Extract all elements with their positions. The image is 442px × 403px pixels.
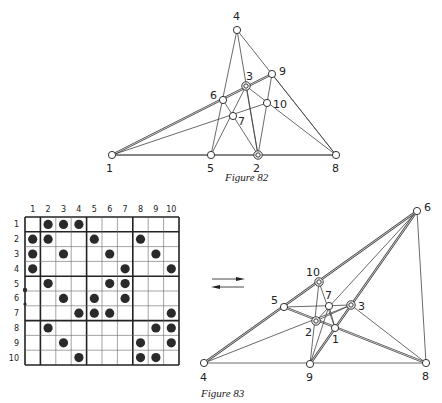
grid-filled-dot xyxy=(28,235,37,244)
grid-filled-dot xyxy=(74,353,83,362)
edge xyxy=(351,305,426,363)
node-label: 9 xyxy=(306,371,313,384)
graph-node-inner-ring xyxy=(256,153,260,157)
grid-row-label: 2 xyxy=(14,235,19,244)
edge xyxy=(417,211,426,363)
arrow-left-icon xyxy=(211,285,244,289)
grid-filled-dot xyxy=(121,264,130,273)
grid-filled-dot xyxy=(121,294,130,303)
grid-filled-dot xyxy=(44,220,53,229)
node-label: 8 xyxy=(332,162,339,175)
grid-filled-dot xyxy=(167,264,176,273)
graph-node xyxy=(207,151,214,158)
figure-83-graph: 12345678910 xyxy=(200,201,431,384)
node-label: 1 xyxy=(106,162,113,175)
grid-filled-dot xyxy=(105,249,114,258)
graph-node xyxy=(332,151,339,158)
figure-83-caption: Figure 83 xyxy=(200,387,245,399)
grid-col-label: 5 xyxy=(92,205,97,214)
node-label: 5 xyxy=(271,294,278,307)
grid-row-label: 1 xyxy=(14,220,19,229)
grid-edge-marker xyxy=(23,302,26,305)
grid-filled-dot xyxy=(90,309,99,318)
edge xyxy=(272,74,336,155)
grid-filled-dot xyxy=(121,279,130,288)
grid-col-label: 10 xyxy=(166,205,176,214)
node-label: 8 xyxy=(422,370,429,383)
grid-filled-dot xyxy=(28,264,37,273)
grid-filled-dot xyxy=(59,294,68,303)
arrow-right-icon xyxy=(212,277,245,281)
figure-canvas: 12345678910 Figure 82 123456789101234567… xyxy=(0,0,442,403)
node-label: 7 xyxy=(238,115,245,128)
grid-filled-dot xyxy=(74,309,83,318)
node-label: 3 xyxy=(246,70,253,83)
grid-filled-dot xyxy=(74,220,83,229)
grid-filled-dot xyxy=(136,338,145,347)
grid-filled-dot xyxy=(105,309,114,318)
grid-filled-dot xyxy=(44,279,53,288)
edge xyxy=(204,305,351,363)
node-label: 7 xyxy=(325,289,332,302)
node-label: 4 xyxy=(200,371,207,384)
figure-82-caption: Figure 82 xyxy=(224,171,269,183)
grid-filled-dot xyxy=(59,249,68,258)
grid-row-label: 6 xyxy=(14,294,19,303)
grid-filled-dot xyxy=(44,235,53,244)
grid-filled-dot xyxy=(44,323,53,332)
graph-node xyxy=(229,112,236,119)
node-label: 10 xyxy=(273,98,287,111)
grid-filled-dot xyxy=(151,249,160,258)
grid-filled-dot xyxy=(151,323,160,332)
edge xyxy=(258,74,272,155)
grid-col-label: 7 xyxy=(123,205,128,214)
graph-node xyxy=(200,359,207,366)
grid-filled-dot xyxy=(105,279,114,288)
grid-col-label: 8 xyxy=(138,205,143,214)
grid-row-label: 3 xyxy=(14,250,19,259)
grid-col-label: 2 xyxy=(46,205,51,214)
graph-node-inner-ring xyxy=(317,280,321,284)
graph-node xyxy=(108,151,115,158)
graph-node xyxy=(413,207,420,214)
graph-node xyxy=(325,302,332,309)
grid-row-label: 8 xyxy=(14,324,19,333)
incidence-grid: 1234567891012345678910 xyxy=(9,205,179,365)
grid-col-label: 3 xyxy=(61,205,66,214)
grid-col-label: 6 xyxy=(107,205,112,214)
grid-edge-marker xyxy=(23,288,27,292)
edge xyxy=(112,103,267,155)
grid-row-label: 10 xyxy=(9,354,19,363)
graph-node xyxy=(219,96,226,103)
node-label: 2 xyxy=(305,326,312,339)
graph-node-inner-ring xyxy=(349,303,353,307)
grid-filled-dot xyxy=(136,235,145,244)
grid-col-label: 4 xyxy=(76,205,81,214)
edge xyxy=(246,86,258,155)
grid-col-label: 1 xyxy=(30,205,35,214)
grid-row-label: 4 xyxy=(14,265,19,274)
graph-node xyxy=(306,360,313,367)
graph-node xyxy=(233,26,240,33)
edge xyxy=(284,305,351,307)
grid-filled-dot xyxy=(90,235,99,244)
node-label: 9 xyxy=(279,65,286,78)
grid-filled-dot xyxy=(151,353,160,362)
node-label: 1 xyxy=(332,333,339,346)
grid-filled-dot xyxy=(28,249,37,258)
node-label: 6 xyxy=(210,89,217,102)
figure-82-graph: 12345678910 xyxy=(106,10,340,175)
node-label: 4 xyxy=(233,10,240,23)
double-edge-inner xyxy=(310,211,417,364)
grid-filled-dot xyxy=(167,338,176,347)
bidirectional-arrows xyxy=(211,277,245,289)
grid-filled-dot xyxy=(59,338,68,347)
grid-filled-dot xyxy=(136,353,145,362)
node-label: 10 xyxy=(306,266,320,279)
graph-node xyxy=(263,99,270,106)
grid-row-label: 5 xyxy=(14,280,19,289)
node-label: 3 xyxy=(358,300,365,313)
grid-filled-dot xyxy=(59,220,68,229)
grid-filled-dot xyxy=(90,294,99,303)
grid-row-label: 9 xyxy=(14,339,19,348)
